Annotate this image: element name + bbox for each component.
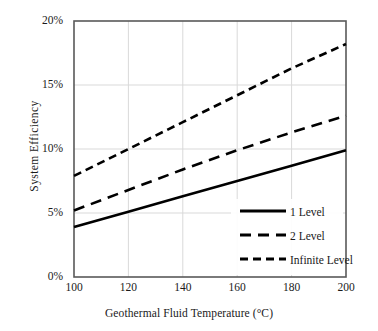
ytick-label-20: 20% [17, 14, 63, 26]
legend-label-infinite-level: Infinite Level [290, 254, 353, 266]
xtick-label-120: 120 [108, 281, 148, 293]
x-axis-title: Geothermal Fluid Temperature (°C) [0, 307, 378, 319]
ytick-label-10: 10% [17, 142, 63, 154]
xtick-label-160: 160 [217, 281, 257, 293]
xtick-label-100: 100 [54, 281, 94, 293]
ytick-label-15: 15% [17, 78, 63, 90]
chart-figure: 20% 15% 10% 5% 0% 100 120 140 160 180 20… [0, 0, 378, 331]
legend-label-2-level: 2 Level [290, 230, 325, 242]
xtick-label-140: 140 [163, 281, 203, 293]
y-axis-title: System Efficiency [28, 46, 40, 246]
legend-label-1-level: 1 Level [290, 206, 325, 218]
ytick-label-5: 5% [17, 206, 63, 218]
xtick-label-200: 200 [326, 281, 366, 293]
xtick-label-180: 180 [272, 281, 312, 293]
